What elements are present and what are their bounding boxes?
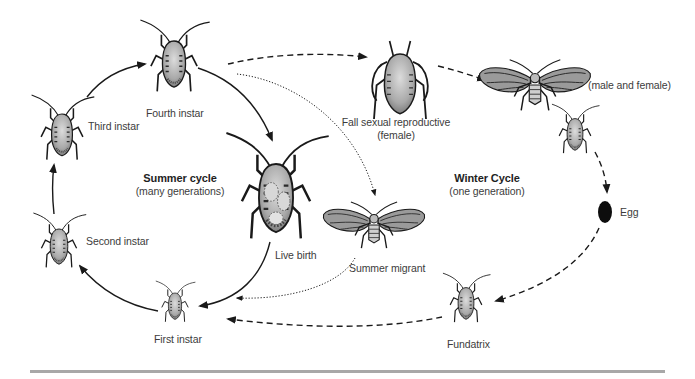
fourth-instar-illustration bbox=[140, 20, 209, 91]
summer-cycle-title: Summer cycle bbox=[143, 172, 216, 184]
third-instar-illustration bbox=[32, 95, 95, 160]
arrow-migrant-to-first bbox=[237, 258, 355, 298]
winter-cycle-subtitle: (one generation) bbox=[449, 185, 524, 197]
label-fourth-instar: Fourth instar bbox=[146, 107, 204, 119]
fall-sexual-reproductive-illustration bbox=[372, 41, 427, 119]
arrow-fourth-to-migrant bbox=[237, 74, 375, 195]
label-summer-migrant: Summer migrant bbox=[349, 262, 425, 274]
arrow-first-to-second bbox=[80, 266, 158, 311]
arrow-live-birth-to-first bbox=[200, 242, 270, 306]
egg-illustration bbox=[598, 201, 612, 223]
arrow-fourth-to-fall bbox=[228, 54, 366, 64]
winter-cycle-title: Winter Cycle bbox=[454, 172, 519, 184]
arrow-fundatrix-to-first bbox=[228, 317, 442, 326]
arrow-egg-to-fundatrix bbox=[496, 228, 599, 301]
label-third-instar: Third instar bbox=[88, 120, 139, 132]
arrow-third-to-fourth bbox=[87, 64, 145, 97]
label-male-and-female: (male and female) bbox=[588, 79, 671, 91]
label-fall-sexual-female: (female) bbox=[377, 129, 415, 141]
label-fundatrix: Fundatrix bbox=[447, 338, 490, 350]
aphid-life-cycle-diagram: Fourth instar Third instar Second instar… bbox=[0, 0, 695, 379]
arrow-second-to-third bbox=[53, 165, 55, 214]
fundatrix-illustration bbox=[443, 273, 491, 322]
male-winged-illustration bbox=[480, 60, 591, 111]
label-first-instar: First instar bbox=[154, 333, 202, 345]
summer-migrant-illustration bbox=[323, 202, 424, 248]
second-instar-illustration bbox=[33, 213, 86, 267]
bottom-divider bbox=[30, 370, 665, 373]
female-sexual-illustration bbox=[552, 104, 600, 153]
label-second-instar: Second instar bbox=[86, 235, 149, 247]
live-birth-illustration bbox=[226, 133, 328, 238]
diagram-canvas bbox=[0, 0, 695, 379]
label-egg: Egg bbox=[620, 206, 638, 218]
arrow-fall-to-sexuals bbox=[438, 66, 485, 80]
summer-cycle-subtitle: (many generations) bbox=[136, 185, 225, 197]
label-fall-sexual-reproductive: Fall sexual reproductive bbox=[342, 116, 451, 128]
label-live-birth: Live birth bbox=[275, 249, 317, 261]
arrow-sexuals-to-egg bbox=[595, 152, 607, 192]
first-instar-illustration bbox=[156, 281, 196, 322]
